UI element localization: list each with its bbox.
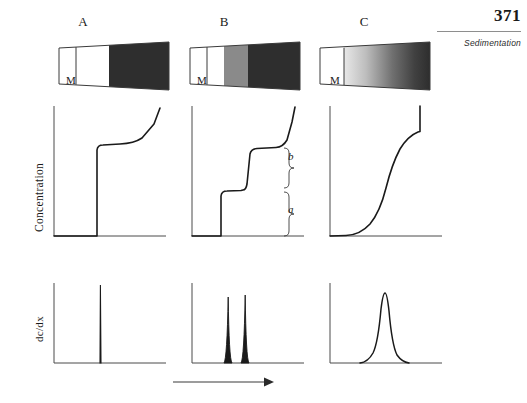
column-header-b: B [204,14,244,30]
axes-deriv-a [54,283,166,363]
derivative-peak-c [360,293,409,363]
concentration-curve-c [330,106,420,236]
column-header-c: C [344,14,384,30]
y-axis-label-concentration: Concentration [33,163,45,232]
sedimentation-figure: 371 Sedimentation A B C M [0,0,527,403]
column-header-a: A [63,14,103,30]
meniscus-label-a: M [66,74,76,86]
derivative-peak-b2 [241,295,249,363]
concentration-plot-a [50,104,170,244]
axes-a [54,106,166,236]
concentration-curve-a [54,108,160,236]
axes-deriv-b [192,283,304,363]
derivative-peak-b1 [224,297,232,363]
page-number: 371 [437,6,521,26]
derivative-plot-c [326,281,446,369]
direction-arrow [172,374,276,392]
arrow-head-icon [264,378,274,387]
axes-c [330,106,442,236]
running-head: 371 Sedimentation [437,6,521,48]
header-rule [437,31,521,32]
derivative-plot-a [50,281,170,369]
derivative-plot-b [188,281,308,369]
meniscus-label-c: M [330,74,340,86]
derivative-peak-a [100,285,101,363]
section-title: Sedimentation [437,38,521,48]
meniscus-label-b: M [197,74,207,86]
concentration-curve-b [192,107,295,236]
concentration-plot-b [188,104,308,244]
concentration-plot-c [326,104,446,244]
y-axis-label-derivative: dc/dx [33,316,45,342]
brace-label-a: a [288,203,294,215]
brace-label-b: b [288,150,294,162]
